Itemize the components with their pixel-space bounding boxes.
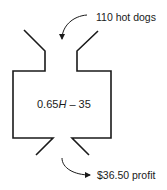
input-label: 110 hot dogs: [96, 11, 156, 23]
formula-coefficient: 0.65: [37, 98, 58, 110]
formula-variable: H: [58, 98, 66, 110]
output-label: $36.50 profit: [97, 169, 155, 181]
function-formula: 0.65H – 35: [37, 98, 91, 110]
function-machine-diagram: 110 hot dogs 0.65H – 35 $36.50 profit: [0, 0, 167, 190]
machine-outline: [13, 30, 111, 155]
input-arrow-icon: [62, 15, 87, 39]
formula-constant: – 35: [66, 98, 90, 110]
output-arrow-icon: [62, 158, 90, 175]
